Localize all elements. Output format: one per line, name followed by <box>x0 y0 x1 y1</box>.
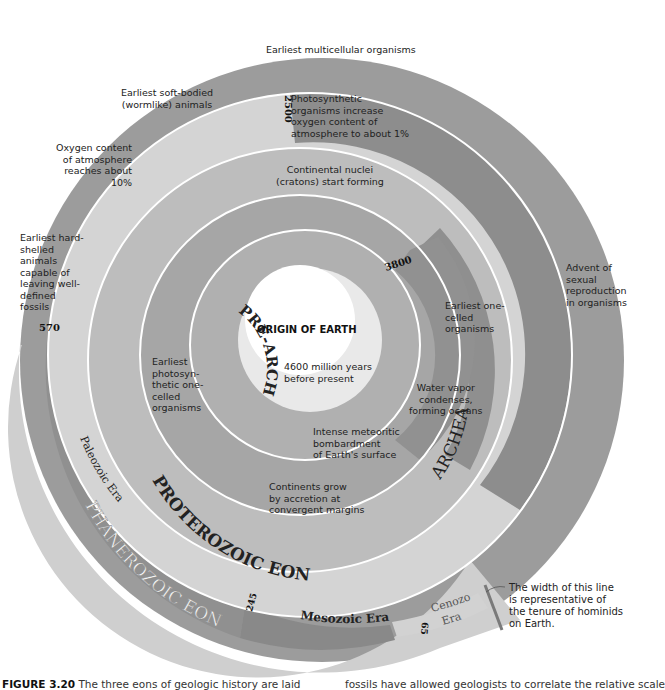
boundary-570: 570 <box>39 322 60 333</box>
event-oxygen-10pct: Oxygen content of atmosphere reaches abo… <box>56 142 132 188</box>
event-meteoritic: Intense meteoritic bombardment of Earth'… <box>313 426 400 461</box>
event-soft-bodied: Earliest soft-bodied (wormlike) animals <box>121 87 213 110</box>
figure-number: FIGURE 3.20 <box>2 678 75 690</box>
figure-caption-left: FIGURE 3.20 The three eons of geologic h… <box>2 678 300 690</box>
event-one-celled: Earliest one- celled organisms <box>445 300 505 335</box>
figure-caption-right: fossils have allowed geologists to corre… <box>345 678 665 690</box>
figure-caption-right-text: fossils have allowed geologists to corre… <box>345 678 665 690</box>
boundary-65: 65 <box>419 622 430 635</box>
center-title: ORIGIN OF EARTH <box>257 324 357 336</box>
event-photosynthetic-one-celled: Earliest photosyn- thetic one- celled or… <box>152 356 203 414</box>
event-cratons: Continental nuclei (cratons) start formi… <box>276 164 384 187</box>
figure-caption-left-text: The three eons of geologic history are l… <box>78 678 300 690</box>
event-hard-shelled: Earliest hard- shelled animals capable o… <box>20 232 84 313</box>
event-continents-grow: Continents grow by accretion at converge… <box>269 481 364 516</box>
event-multicellular: Earliest multicellular organisms <box>266 44 416 56</box>
center-subtitle: 4600 million years before present <box>284 361 372 384</box>
event-sexual-reproduction: Advent of sexual reproduction in organis… <box>566 262 627 308</box>
event-oxygen-1pct: Photosynthetic organisms increase oxygen… <box>291 93 409 139</box>
event-water-vapor: Water vapor condenses, forming oceans <box>409 382 483 417</box>
annotation-hominids: The width of this line is representative… <box>509 582 623 630</box>
